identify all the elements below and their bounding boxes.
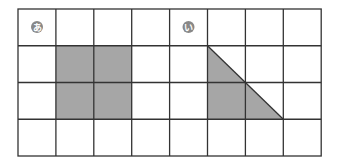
svg-text:い: い	[184, 23, 193, 33]
grid-lines	[18, 9, 321, 156]
svg-text:あ: あ	[33, 23, 42, 33]
grid-figure: あ い	[0, 0, 338, 165]
badge-i: い	[183, 21, 195, 33]
badge-a: あ	[31, 21, 43, 33]
